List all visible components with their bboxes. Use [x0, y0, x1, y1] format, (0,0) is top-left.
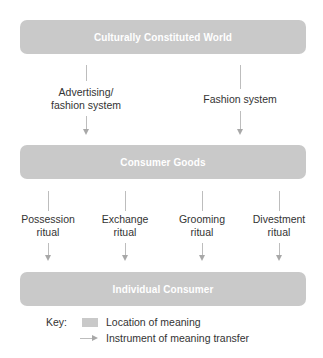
connector-line: [86, 65, 87, 81]
instrument-exchange-ritual: Exchange ritual: [102, 213, 149, 239]
box-label-world: Culturally Constituted World: [94, 32, 232, 43]
connector-line: [48, 191, 49, 211]
label-line: Grooming: [179, 213, 225, 226]
key-title: Key:: [46, 316, 67, 329]
box-culturally-constituted-world: Culturally Constituted World: [20, 20, 306, 54]
label-line: ritual: [21, 226, 75, 239]
connector-line: [202, 191, 203, 211]
arrow-down-icon: [237, 129, 243, 135]
instrument-grooming-ritual: Grooming ritual: [179, 213, 225, 239]
connector-line: [125, 191, 126, 211]
key-location-label: Location of meaning: [106, 316, 201, 329]
connector-line: [240, 111, 241, 130]
connector-line: [279, 191, 280, 211]
key-arrow-line: [80, 338, 92, 339]
connector-line: [240, 65, 241, 89]
arrow-down-icon: [83, 129, 89, 135]
label-line: ritual: [102, 226, 149, 239]
box-label-goods: Consumer Goods: [120, 157, 205, 168]
label-line: Fashion system: [203, 93, 277, 106]
location-swatch-icon: [82, 318, 98, 327]
instrument-possession-ritual: Possession ritual: [21, 213, 75, 239]
label-line: Exchange: [102, 213, 149, 226]
arrow-down-icon: [122, 255, 128, 261]
instrument-divestment-ritual: Divestment ritual: [253, 213, 306, 239]
arrow-down-icon: [199, 255, 205, 261]
arrow-down-icon: [276, 255, 282, 261]
connector-line: [86, 116, 87, 130]
box-consumer-goods: Consumer Goods: [20, 145, 306, 179]
label-line: ritual: [179, 226, 225, 239]
box-label-consumer: Individual Consumer: [113, 284, 214, 295]
label-line: ritual: [253, 226, 306, 239]
instrument-fashion-system: Fashion system: [203, 93, 277, 106]
label-line: Advertising/: [51, 86, 121, 99]
arrow-down-icon: [45, 255, 51, 261]
box-individual-consumer: Individual Consumer: [20, 272, 306, 306]
label-line: fashion system: [51, 99, 121, 112]
key-instrument-label: Instrument of meaning transfer: [106, 332, 249, 345]
arrow-right-icon: [92, 335, 98, 341]
label-line: Possession: [21, 213, 75, 226]
label-line: Divestment: [253, 213, 306, 226]
instrument-advertising-fashion: Advertising/ fashion system: [51, 86, 121, 112]
